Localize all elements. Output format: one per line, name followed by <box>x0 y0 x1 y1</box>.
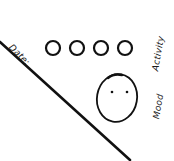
sketch-canvas <box>0 0 174 161</box>
face-outline <box>93 71 141 125</box>
face-outline-overdraw <box>108 74 122 78</box>
activity-circle-4[interactable] <box>118 41 132 55</box>
activity-circle-1[interactable] <box>46 41 60 55</box>
right-eye-icon <box>126 91 129 94</box>
activity-circles <box>46 41 132 55</box>
left-eye-icon <box>111 91 114 94</box>
activity-circle-2[interactable] <box>70 41 84 55</box>
activity-circle-3[interactable] <box>94 41 108 55</box>
mood-face[interactable] <box>93 71 141 125</box>
